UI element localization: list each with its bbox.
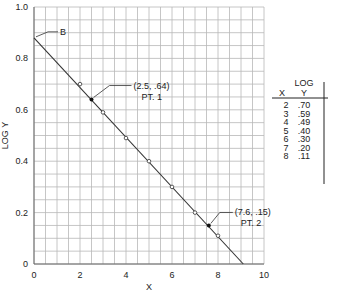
- log-y-chart: 024681000.20.40.60.81.0XLOG YB(2.5, .64)…: [0, 0, 358, 292]
- x-tick-label: 0: [31, 270, 36, 280]
- data-point: [147, 159, 151, 163]
- y-tick-label: 0.8: [15, 53, 28, 63]
- data-point: [193, 211, 197, 215]
- data-point: [101, 111, 105, 115]
- point-2-marker: [207, 223, 211, 227]
- point-1-marker: [90, 98, 94, 102]
- y-tick-label: 0.4: [15, 156, 28, 166]
- annotation-b: B: [60, 27, 66, 37]
- x-tick-label: 6: [169, 270, 174, 280]
- annotation-pt1-label: PT. 1: [142, 92, 163, 102]
- annotation-pt2-label: PT. 2: [241, 218, 262, 228]
- table-header-log: LOG: [294, 78, 313, 88]
- x-tick-label: 4: [123, 270, 128, 280]
- y-tick-label: 0: [23, 259, 28, 269]
- y-tick-label: 0.6: [15, 105, 28, 115]
- annotation-pt2-coords: (7.6, .15): [235, 207, 271, 217]
- x-tick-label: 8: [215, 270, 220, 280]
- data-point: [78, 82, 82, 86]
- data-point: [170, 185, 174, 189]
- y-axis-label: LOG Y: [0, 122, 10, 149]
- table-header-x: X: [279, 88, 285, 98]
- y-tick-label: 0.2: [15, 208, 28, 218]
- data-point: [124, 136, 128, 140]
- x-axis-label: X: [146, 282, 152, 292]
- table-cell-x: 8: [283, 151, 288, 161]
- annotation-pt1-coords: (2.5, .64): [134, 81, 170, 91]
- y-tick-label: 1.0: [15, 2, 28, 12]
- table-header-y: Y: [301, 88, 307, 98]
- fit-line: [34, 38, 243, 264]
- x-tick-label: 2: [77, 270, 82, 280]
- table-cell-y: .11: [298, 151, 310, 161]
- x-tick-label: 10: [259, 270, 269, 280]
- data-point: [216, 234, 220, 238]
